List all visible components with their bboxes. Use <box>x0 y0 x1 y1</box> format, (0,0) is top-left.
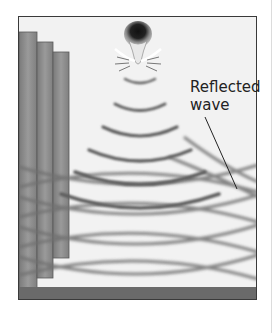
page-edge-line <box>271 0 272 333</box>
echolocation-illustration <box>19 17 257 300</box>
reflected-wave-label: Reflected wave <box>190 78 261 114</box>
wall-icon <box>19 32 69 288</box>
bat-icon <box>115 21 161 71</box>
label-line-1: Reflected <box>190 78 261 96</box>
label-line-2: wave <box>190 96 261 114</box>
floor-icon <box>19 287 257 300</box>
diagram-frame <box>18 16 257 300</box>
